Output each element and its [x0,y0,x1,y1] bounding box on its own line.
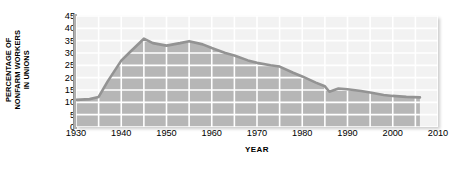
x-axis-tick-label: 1980 [292,128,312,138]
y-axis-title-line-3: IN UNIONS [23,30,32,110]
x-axis-tick-label: 1990 [337,128,357,138]
x-axis-tick-label: 1970 [247,128,267,138]
union-membership-chart: PERCENTAGE OF NONFARM WORKERS IN UNIONS … [0,0,453,175]
chart-plot-svg [76,16,438,127]
x-axis-tick-labels: 193019401950196019701980199020002010 [0,128,453,142]
y-axis-tick-labels: 051015202530354045 [55,0,75,175]
x-axis-tick-label: 1950 [156,128,176,138]
series-area-fill [76,39,420,127]
plot-area [76,16,438,127]
x-axis-tick-label: 1930 [66,128,86,138]
y-axis-title: PERCENTAGE OF NONFARM WORKERS IN UNIONS [0,0,58,140]
x-axis-tick-label: 1960 [202,128,222,138]
x-axis-tick-label: 2000 [383,128,403,138]
x-axis-title: YEAR [76,145,438,154]
x-axis-tick-label: 1940 [111,128,131,138]
x-axis-tick-label: 2010 [428,128,448,138]
